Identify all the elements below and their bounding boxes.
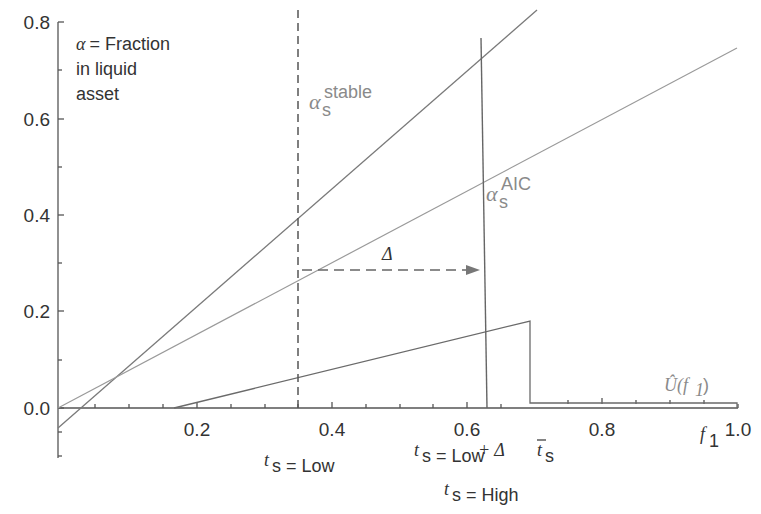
svg-text:f: f	[700, 424, 708, 444]
alpha-aic-vertical	[481, 38, 487, 408]
t-high-label: t s = High	[444, 479, 519, 505]
y-tick-0.6: 0.6	[24, 109, 50, 130]
y-tick-labels: 0.8 0.6 0.4 0.2 0.0	[24, 12, 51, 419]
svg-text:s = Low: s = Low	[422, 446, 486, 466]
alpha-aic-sub: s	[499, 192, 508, 212]
x-tick-1.0: 1.0	[725, 419, 751, 440]
t-bar-label: t s	[537, 440, 554, 466]
y-axis-title-line2: in liquid	[76, 59, 137, 79]
delta-arrow	[302, 265, 480, 275]
u-hat-label: Û(f 1 )	[664, 374, 709, 400]
x-tick-labels: 0.2 0.4 0.6 0.8 1.0	[184, 419, 751, 440]
t-low-label: t s = Low	[264, 450, 336, 476]
t-low-plus-delta-label: t s = Low + Δ	[414, 440, 505, 466]
svg-text:s = High: s = High	[452, 485, 519, 505]
x-axis-title: f 1	[700, 424, 719, 451]
y-axis-title: α= Fraction	[76, 34, 170, 54]
y-tick-0.4: 0.4	[24, 205, 51, 226]
y-axis	[58, 22, 64, 458]
y-tick-0.8: 0.8	[24, 12, 50, 33]
x-tick-0.8: 0.8	[589, 419, 615, 440]
svg-text:s: s	[545, 446, 554, 466]
y-tick-0.0: 0.0	[24, 398, 50, 419]
chart-canvas: 0.8 0.6 0.4 0.2 0.0 0.2 0.4 0.6 0.8 1.0 …	[0, 0, 761, 514]
x-tick-0.4: 0.4	[319, 419, 346, 440]
svg-text:): )	[703, 375, 709, 395]
svg-text:1: 1	[709, 431, 719, 451]
svg-text:Û(f: Û(f	[664, 374, 691, 396]
x-tick-0.2: 0.2	[184, 419, 210, 440]
alpha-stable-sup: stable	[324, 82, 372, 102]
svg-text:t: t	[444, 479, 450, 499]
x-tick-0.6: 0.6	[454, 419, 480, 440]
delta-label: Δ	[381, 244, 393, 264]
svg-text:+ Δ: + Δ	[478, 440, 505, 460]
alpha-aic-label: α	[486, 181, 498, 206]
y-axis-title-line3: asset	[76, 84, 119, 104]
svg-text:t: t	[264, 450, 270, 470]
alpha-aic-sup: AIC	[501, 174, 531, 194]
u-hat-step-line	[174, 321, 737, 408]
svg-text:t: t	[414, 440, 420, 460]
alpha-stable-label: α	[309, 89, 321, 114]
svg-text:s = Low: s = Low	[272, 456, 336, 476]
y-tick-0.2: 0.2	[24, 301, 50, 322]
alpha-stable-sub: s	[322, 100, 331, 120]
svg-text:t: t	[537, 440, 543, 460]
